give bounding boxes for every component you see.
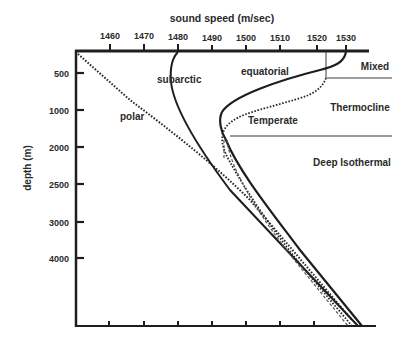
y-tick-label: 500: [54, 69, 69, 79]
x-tick-labels: 1460 1470 1480 1490 1500 1510 1520 1530: [100, 31, 356, 43]
polar-label: polar: [120, 111, 145, 122]
y-tick-label: 4000: [49, 254, 69, 264]
zone-labels: Mixed Thermocline Deep Isothermal: [313, 61, 391, 168]
curve-labels: subarctic equatorial polar Temperate: [120, 66, 298, 126]
y-tick-labels: 500 1000 2000 2500 3000 4000: [49, 69, 69, 264]
subarctic-curve: [171, 52, 358, 326]
x-tick-label: 1490: [202, 33, 222, 43]
x-tick-label: 1460: [100, 31, 120, 41]
x-tick-label: 1470: [134, 31, 154, 41]
equatorial-label: equatorial: [241, 66, 289, 77]
subarctic-label: subarctic: [157, 74, 202, 85]
chart-title: sound speed (m/sec): [170, 12, 274, 24]
equatorial-curve: [220, 52, 362, 326]
thermocline-zone-label: Thermocline: [330, 102, 390, 113]
x-tick-label: 1510: [270, 33, 290, 43]
y-tick-label: 1000: [49, 106, 69, 116]
sound-speed-chart: sound speed (m/sec) 1460 1470 1480 1490 …: [0, 0, 411, 345]
mixed-zone-label: Mixed: [361, 61, 389, 72]
curves: [78, 52, 362, 326]
x-tick-label: 1500: [236, 33, 256, 43]
deep-isothermal-zone-label: Deep Isothermal: [313, 157, 391, 168]
x-tick-label: 1480: [168, 32, 188, 42]
y-tick-label: 2500: [49, 180, 69, 190]
x-tick-label: 1530: [336, 33, 356, 43]
y-axis-label: depth (m): [22, 145, 33, 191]
temperate-label: Temperate: [248, 115, 298, 126]
x-tick-label: 1520: [307, 33, 327, 43]
y-tick-label: 3000: [49, 218, 69, 228]
y-tick-label: 2000: [49, 143, 69, 153]
